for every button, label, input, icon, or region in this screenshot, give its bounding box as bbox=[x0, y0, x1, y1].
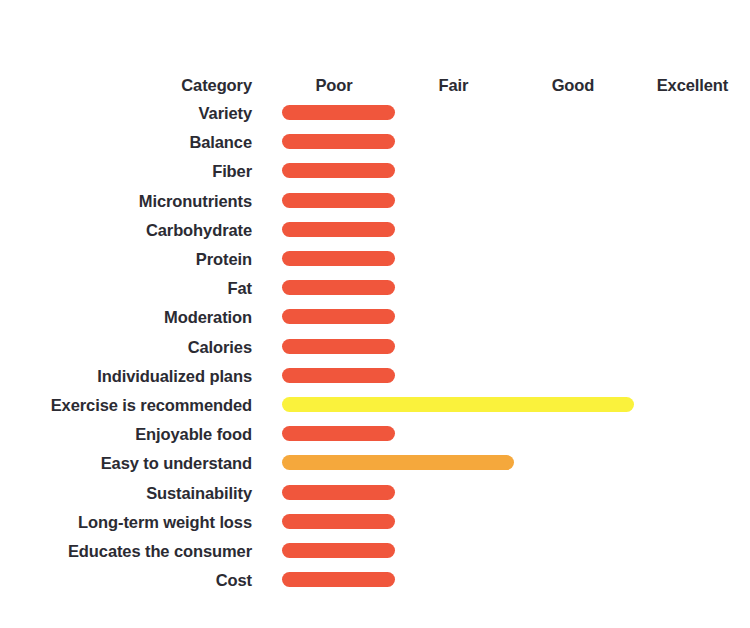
chart-row: Cost bbox=[0, 572, 750, 601]
row-label-fat: Fat bbox=[228, 280, 252, 296]
chart-row: Educates the consumer bbox=[0, 543, 750, 572]
row-label-micronutrients: Micronutrients bbox=[139, 193, 252, 209]
bar-carbohydrate bbox=[282, 222, 395, 237]
diet-rating-chart: Category PoorFairGoodExcellent VarietyBa… bbox=[0, 0, 750, 628]
row-label-easy-to-understand: Easy to understand bbox=[101, 455, 252, 471]
bar-calories bbox=[282, 339, 395, 354]
bar-balance bbox=[282, 134, 395, 149]
bar-educates-the-consumer bbox=[282, 543, 395, 558]
bar-sustainability bbox=[282, 485, 395, 500]
bar-long-term-weight-loss bbox=[282, 514, 395, 529]
bar-moderation bbox=[282, 309, 395, 324]
chart-row: Moderation bbox=[0, 309, 750, 338]
chart-row: Balance bbox=[0, 134, 750, 163]
chart-rows: VarietyBalanceFiberMicronutrientsCarbohy… bbox=[0, 0, 750, 628]
row-label-variety: Variety bbox=[199, 105, 252, 121]
bar-enjoyable-food bbox=[282, 426, 395, 441]
bar-micronutrients bbox=[282, 193, 395, 208]
row-label-enjoyable-food: Enjoyable food bbox=[135, 426, 252, 442]
bar-protein bbox=[282, 251, 395, 266]
row-label-carbohydrate: Carbohydrate bbox=[146, 222, 252, 238]
bar-fiber bbox=[282, 163, 395, 178]
chart-row: Long-term weight loss bbox=[0, 514, 750, 543]
row-label-sustainability: Sustainability bbox=[146, 485, 252, 501]
chart-row: Variety bbox=[0, 105, 750, 134]
chart-row: Individualized plans bbox=[0, 368, 750, 397]
row-label-protein: Protein bbox=[196, 251, 252, 267]
bar-fat bbox=[282, 280, 395, 295]
row-label-individualized-plans: Individualized plans bbox=[97, 368, 252, 384]
chart-row: Carbohydrate bbox=[0, 222, 750, 251]
bar-exercise-is-recommended bbox=[282, 397, 634, 412]
row-label-moderation: Moderation bbox=[164, 309, 252, 325]
bar-variety bbox=[282, 105, 395, 120]
row-label-educates-the-consumer: Educates the consumer bbox=[68, 543, 252, 559]
bar-cost bbox=[282, 572, 395, 587]
row-label-fiber: Fiber bbox=[212, 163, 252, 179]
row-label-long-term-weight-loss: Long-term weight loss bbox=[78, 514, 252, 530]
chart-row: Micronutrients bbox=[0, 193, 750, 222]
chart-row: Enjoyable food bbox=[0, 426, 750, 455]
row-label-cost: Cost bbox=[216, 572, 252, 588]
row-label-exercise-is-recommended: Exercise is recommended bbox=[51, 397, 252, 413]
chart-row: Protein bbox=[0, 251, 750, 280]
row-label-calories: Calories bbox=[188, 339, 252, 355]
chart-row: Calories bbox=[0, 339, 750, 368]
chart-row: Sustainability bbox=[0, 485, 750, 514]
chart-row: Exercise is recommended bbox=[0, 397, 750, 426]
bar-easy-to-understand bbox=[282, 455, 514, 470]
row-label-balance: Balance bbox=[189, 134, 252, 150]
chart-row: Fiber bbox=[0, 163, 750, 192]
chart-row: Fat bbox=[0, 280, 750, 309]
bar-individualized-plans bbox=[282, 368, 395, 383]
chart-row: Easy to understand bbox=[0, 455, 750, 484]
